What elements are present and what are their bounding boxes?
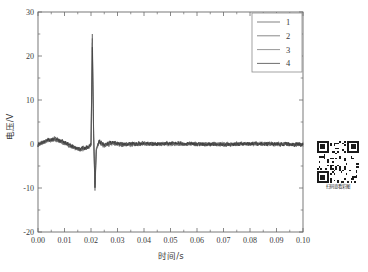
x-tick-label: 0.01 bbox=[58, 236, 72, 245]
x-tick-label: 0.07 bbox=[217, 236, 231, 245]
legend-label-1: 1 bbox=[286, 17, 290, 27]
y-tick-label: 30 bbox=[26, 8, 34, 17]
qr-code-caption: 扫码查看彩图 bbox=[326, 184, 350, 190]
chart-legend: 1234 bbox=[252, 13, 302, 72]
y-axis-label: 电压/V bbox=[5, 113, 15, 140]
x-tick-label: 0.03 bbox=[111, 236, 125, 245]
x-tick-label: 0.08 bbox=[243, 236, 257, 245]
x-axis-tick-labels: 0.000.010.020.030.040.050.060.070.080.09… bbox=[31, 236, 310, 245]
y-tick-label: -10 bbox=[23, 184, 34, 193]
y-tick-label: 0 bbox=[30, 140, 34, 149]
x-axis-label: 时间/s bbox=[158, 251, 184, 261]
figure-root: 0.000.010.020.030.040.050.060.070.080.09… bbox=[0, 0, 368, 272]
x-tick-label: 0.06 bbox=[190, 236, 204, 245]
legend-label-2: 2 bbox=[286, 31, 290, 41]
x-tick-label: 0.04 bbox=[137, 236, 151, 245]
qr-code-image[interactable] bbox=[317, 141, 359, 183]
x-tick-label: 0.00 bbox=[31, 236, 45, 245]
y-tick-label: 10 bbox=[26, 96, 34, 105]
y-tick-label: -20 bbox=[23, 228, 34, 237]
x-tick-label: 0.10 bbox=[296, 236, 310, 245]
voltage-time-chart: 0.000.010.020.030.040.050.060.070.080.09… bbox=[0, 0, 368, 272]
y-tick-label: 20 bbox=[26, 52, 34, 61]
qr-code-block[interactable]: 扫码查看彩图 bbox=[316, 141, 360, 190]
x-tick-label: 0.02 bbox=[84, 236, 98, 245]
legend-label-3: 3 bbox=[286, 45, 290, 55]
x-tick-label: 0.09 bbox=[270, 236, 284, 245]
x-tick-label: 0.05 bbox=[164, 236, 178, 245]
y-axis-tick-labels: 3020100-10-20 bbox=[23, 8, 34, 237]
